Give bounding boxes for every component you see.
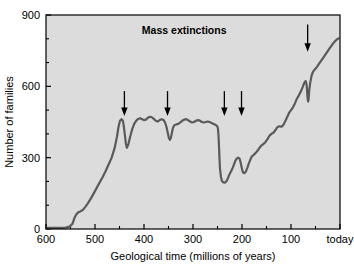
extinction-chart-figure: 600500400300200100today 0300600900 Geolo… (0, 0, 354, 267)
y-tick-label: 300 (22, 152, 40, 164)
x-tick-label: 100 (282, 233, 300, 245)
x-tick-label: 400 (135, 233, 153, 245)
x-tick-label: 300 (184, 233, 202, 245)
x-tick-label: 200 (233, 233, 251, 245)
y-axis-title: Number of families (3, 76, 15, 168)
y-tick-label: 900 (22, 9, 40, 21)
x-tick-label: today (327, 233, 354, 245)
mass-extinctions-label: Mass extinctions (142, 24, 227, 36)
y-tick-label: 0 (34, 223, 40, 235)
chart-svg: 600500400300200100today 0300600900 Geolo… (0, 0, 354, 267)
y-tick-label: 600 (22, 80, 40, 92)
x-axis-title: Geological time (millions of years) (110, 250, 275, 262)
x-tick-label: 500 (86, 233, 104, 245)
